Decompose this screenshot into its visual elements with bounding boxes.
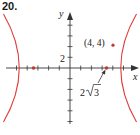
vertex-label: 2 3: [80, 85, 101, 99]
y-tick-label-2: 2: [60, 53, 65, 64]
point-4-4: [111, 44, 114, 47]
x-axis: [6, 65, 139, 71]
x-axis-label: x: [132, 71, 138, 82]
right-vertex-point: [105, 66, 109, 70]
y-axis-arrow-icon: [67, 12, 73, 20]
left-vertex-point: [32, 66, 36, 70]
point-label: (4, 4): [84, 38, 105, 49]
vertex-label-radicand: 3: [94, 87, 99, 98]
y-axis-label: y: [58, 8, 64, 19]
vertex-label-coef: 2: [80, 87, 85, 98]
hyperbola-diagram: y x 2 (4, 4) 2 3: [0, 0, 140, 135]
vertex-pointer-arrow: [98, 70, 106, 84]
